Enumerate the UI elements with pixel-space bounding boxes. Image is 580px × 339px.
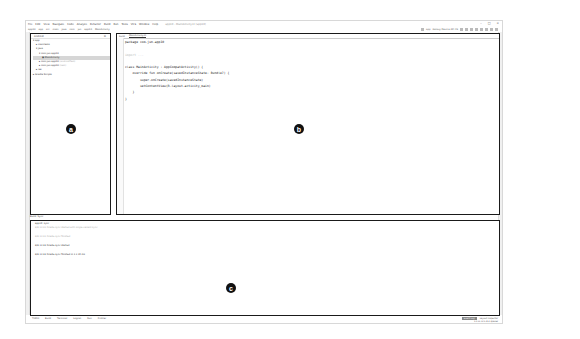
project-tree: ▾ app ▸ manifests ▾ java ▾ com.jun.app10… [31, 39, 110, 77]
breadcrumb-item[interactable]: MainActivity [95, 28, 110, 31]
run-icon[interactable] [460, 28, 463, 31]
annotation-badge-a: a [66, 124, 76, 134]
profile-icon[interactable] [470, 28, 473, 31]
search-icon[interactable] [495, 28, 498, 31]
code-area[interactable]: package com.jun.app10 import ... class M… [125, 39, 229, 102]
debug-icon[interactable] [465, 28, 468, 31]
ide-window: File Edit View Navigate Code Analyze Ref… [25, 20, 503, 324]
breadcrumb-item[interactable]: main [53, 28, 59, 31]
breadcrumb-item[interactable]: app [39, 28, 44, 31]
close-button[interactable]: × [496, 21, 499, 25]
menu-vcs[interactable]: VCS [131, 23, 136, 26]
tab-terminal[interactable]: Terminal [57, 317, 67, 320]
menu-tools[interactable]: Tools [121, 23, 127, 26]
tab-profiler[interactable]: Profiler [98, 317, 106, 320]
menu-build[interactable]: Build [104, 23, 111, 26]
breadcrumb-item[interactable]: app10 [28, 28, 36, 31]
tab-logcat[interactable]: Logcat [73, 317, 81, 320]
main-toolbar: app Galaxy Device API 29 [421, 27, 498, 32]
annotation-badge-b: b [294, 124, 304, 134]
build-panel-title: Build: Sync [30, 215, 43, 218]
code-line: } [125, 96, 229, 102]
editor-gutter [117, 38, 124, 214]
menu-navigate[interactable]: Navigate [53, 23, 65, 26]
tab-todo[interactable]: TODO [32, 317, 39, 320]
menu-window[interactable]: Window [139, 23, 149, 26]
tool-window-tabs: TODO Build Terminal Logcat Run Profiler [32, 317, 106, 320]
annotation-badge-c: c [226, 283, 236, 293]
window-title: app10 - MainActivity.kt [app10] [165, 23, 206, 26]
breadcrumb-item[interactable]: app10 [84, 28, 92, 31]
tree-item-gradle-scripts[interactable]: ▸ Gradle Scripts [33, 73, 110, 77]
menu-view[interactable]: View [43, 23, 49, 26]
breadcrumb-item[interactable]: java [62, 28, 67, 31]
breadcrumb-item[interactable]: src [46, 28, 50, 31]
project-panel: Android ⚙ ▾ app ▸ manifests ▾ java ▾ com… [30, 33, 111, 215]
menu-help[interactable]: Help [152, 23, 158, 26]
tab-build-tool[interactable]: Build [45, 317, 51, 320]
sdk-manager-icon[interactable] [490, 28, 493, 31]
breadcrumb-item[interactable]: jun [78, 28, 82, 31]
breadcrumb-item[interactable]: com [70, 28, 75, 31]
sync-icon[interactable] [480, 28, 483, 31]
build-line: 8/8 11:32 Gradle sync finished in 1 s 10… [35, 253, 499, 257]
code-editor: build MainActivity.kt package com.jun.ap… [116, 33, 500, 215]
menu-analyze[interactable]: Analyze [77, 23, 87, 26]
hammer-icon[interactable] [421, 28, 424, 31]
project-view-selector[interactable]: Android [34, 35, 44, 38]
run-config-select[interactable]: app [426, 28, 431, 31]
build-output: app10: sync 8/8 11:31 Gradle sync starte… [31, 221, 499, 257]
menu-file[interactable]: File [28, 23, 32, 26]
menu-run[interactable]: Run [113, 23, 118, 26]
code-line: override fun onCreate(savedInstanceState… [125, 70, 229, 76]
window-controls: – □ × [480, 21, 499, 25]
menu-edit[interactable]: Edit [35, 23, 40, 26]
cursor-position[interactable]: 1:1 LF UTF-8 4 spaces [462, 320, 498, 323]
stop-icon[interactable] [475, 28, 478, 31]
menu-code[interactable]: Code [67, 23, 74, 26]
menu-refactor[interactable]: Refactor [90, 23, 101, 26]
tab-run[interactable]: Run [87, 317, 92, 320]
status-bar: Event LogLayout Inspector 1:1 LF UTF-8 4… [462, 317, 498, 324]
avd-manager-icon[interactable] [485, 28, 488, 31]
minimize-button[interactable]: – [480, 21, 482, 25]
maximize-button[interactable]: □ [488, 21, 491, 25]
build-panel: app10: sync 8/8 11:31 Gradle sync starte… [30, 220, 500, 316]
tab-mainactivity[interactable]: MainActivity.kt [129, 34, 146, 38]
device-select[interactable]: Galaxy Device API 29 [432, 28, 458, 31]
gear-icon[interactable]: ⚙ [104, 35, 106, 38]
